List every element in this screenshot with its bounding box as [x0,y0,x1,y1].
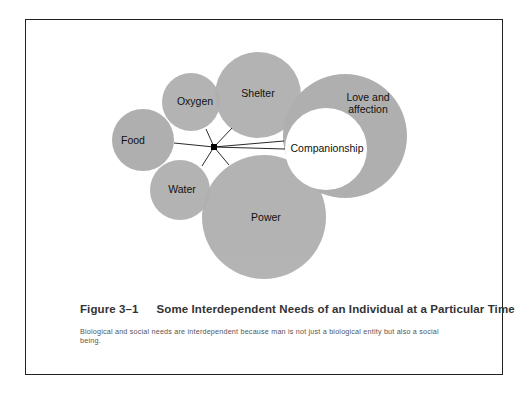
label-water: Water [168,183,196,195]
figure-number: Figure 3–1 [80,303,139,315]
label-love-line1: Love and [346,91,389,103]
figure-title: Some Interdependent Needs of an Individu… [157,303,515,315]
label-love-line2: affection [348,103,388,115]
label-food: Food [121,134,145,146]
label-power: Power [251,211,281,223]
figure-caption-title: Figure 3–1Some Interdependent Needs of a… [80,303,515,315]
label-companionship: Companionship [291,142,364,154]
figure-caption-body: Biological and social needs are interdep… [80,328,460,345]
label-oxygen: Oxygen [177,95,213,107]
label-shelter: Shelter [241,87,275,99]
hub-node [211,144,217,150]
